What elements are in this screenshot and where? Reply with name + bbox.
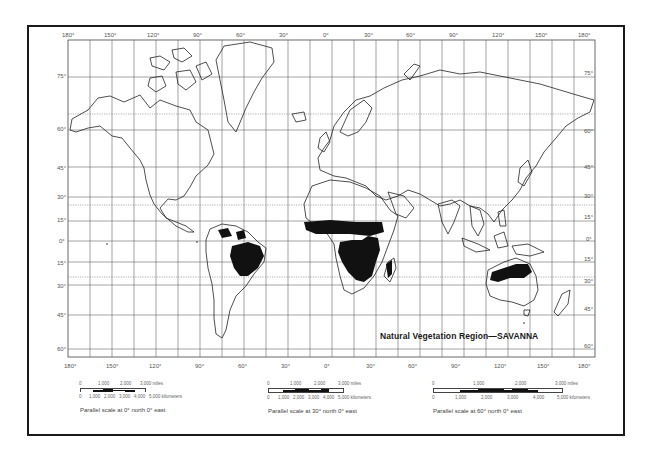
- map-title: Natural Vegetation Region—SAVANNA: [380, 331, 538, 341]
- lon-label-top: 150°: [104, 32, 116, 38]
- lat-label-right: 15°: [584, 256, 593, 262]
- lon-label-bottom: 60°: [408, 363, 417, 369]
- lon-label-bottom: 180°: [578, 363, 590, 369]
- scale-bar-60n: 0 1,000 2,000 3,000 miles 0 1,000 2,000 …: [433, 381, 588, 414]
- lon-label-bottom: 90°: [195, 363, 204, 369]
- lat-label-left: 0°: [59, 238, 65, 244]
- km-ticks: 0 1,000 2,000 3,000 4,000 5,000 kilomete…: [80, 394, 170, 401]
- lon-label-top: 180°: [62, 32, 74, 38]
- lat-label-left: 15°: [57, 217, 66, 223]
- lat-label-left: 45°: [57, 312, 66, 318]
- lat-label-right: 15°: [584, 214, 593, 220]
- parallel-grid: [68, 77, 595, 349]
- km-ticks: 0 1,000 2,000 3,000 4,000 5,000 kilomete…: [268, 395, 378, 402]
- lon-label-top: 120°: [492, 32, 504, 38]
- lon-label-bottom: 30°: [281, 363, 290, 369]
- lat-label-right: 75°: [584, 70, 593, 76]
- scale-bar-30n: 0 1,000 2,000 3,000 miles 0 1,000 2,000 …: [268, 381, 378, 414]
- lat-label-left: 60°: [57, 126, 66, 132]
- lon-label-top: 30°: [364, 32, 373, 38]
- km-ticks: 0 1,000 2,000 3,000 4,000 5,000 kilomete…: [433, 395, 588, 402]
- lat-label-right: 30°: [584, 193, 593, 199]
- scale-bar-graphic: [268, 388, 344, 393]
- miles-ticks: 0 1,000 2,000 3,000 miles: [433, 381, 588, 388]
- lat-label-left: 75°: [57, 73, 66, 79]
- lat-label-right: 60°: [584, 343, 593, 349]
- lon-label-top: 60°: [406, 32, 415, 38]
- lon-label-top: 60°: [236, 32, 245, 38]
- lon-label-top: 180°: [578, 32, 590, 38]
- lat-label-left: 30°: [57, 283, 66, 289]
- lat-label-right: 45°: [584, 306, 593, 312]
- lon-label-top: 0°: [323, 32, 329, 38]
- lat-label-left: 30°: [57, 194, 66, 200]
- lon-label-top: 30°: [279, 32, 288, 38]
- lon-label-top: 90°: [193, 32, 202, 38]
- lon-label-top: 90°: [449, 32, 458, 38]
- lat-label-right: 45°: [584, 164, 593, 170]
- scale-bar-graphic: [433, 388, 563, 393]
- lon-label-bottom: 120°: [494, 363, 506, 369]
- lat-label-right: 60°: [584, 128, 593, 134]
- lon-label-bottom: 120°: [149, 363, 161, 369]
- miles-ticks: 0 1,000 2,000 3,000 miles: [268, 381, 378, 388]
- lon-label-bottom: 90°: [451, 363, 460, 369]
- lat-label-right: 30°: [584, 278, 593, 284]
- lon-label-bottom: 150°: [106, 363, 118, 369]
- meridian-grid: [90, 40, 574, 357]
- lat-label-left: 60°: [57, 346, 66, 352]
- islands: [106, 241, 525, 324]
- lon-label-bottom: 0°: [324, 363, 330, 369]
- miles-ticks: 0 1,000 2,000 3,000 miles: [80, 381, 170, 388]
- lon-label-bottom: 30°: [366, 363, 375, 369]
- scale-caption: Parallel scale at 30° north 0° east: [268, 408, 378, 414]
- lat-label-right: 0°: [586, 236, 592, 242]
- lat-label-left: 45°: [57, 165, 66, 171]
- lon-label-top: 150°: [535, 32, 547, 38]
- scale-caption: Parallel scale at 60° north 0° east: [433, 408, 588, 414]
- lon-label-top: 120°: [147, 32, 159, 38]
- lon-label-bottom: 60°: [238, 363, 247, 369]
- lon-label-bottom: 180°: [64, 363, 76, 369]
- lat-label-left: 15°: [57, 260, 66, 266]
- scale-caption: Parallel scale at 0° north 0° east: [80, 407, 170, 413]
- lon-label-bottom: 150°: [537, 363, 549, 369]
- scale-bar-graphic: [80, 388, 146, 392]
- scale-bar-equator: 0 1,000 2,000 3,000 miles 0 1,000 2,000 …: [80, 381, 170, 413]
